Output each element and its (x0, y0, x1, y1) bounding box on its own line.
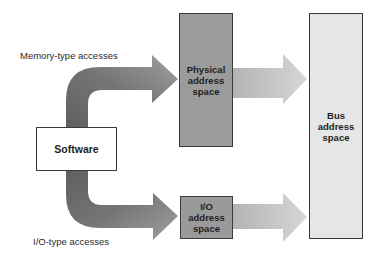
io-accesses-label: I/O-type accesses (33, 236, 109, 247)
software-box: Software (36, 127, 117, 171)
io-address-space-label: I/O address space (188, 201, 224, 234)
physical-address-space-box: Physical address space (179, 13, 233, 147)
io-to-bus-arrow (233, 193, 307, 242)
address-space-diagram: Memory-type accesses I/O-type accesses P… (0, 0, 380, 264)
physical-to-bus-arrow (233, 54, 307, 104)
software-label: Software (54, 144, 98, 155)
bus-address-space-box: Bus address space (309, 13, 363, 239)
io-address-space-box: I/O address space (180, 196, 233, 239)
bus-address-space-label: Bus address space (318, 110, 354, 143)
physical-address-space-label: Physical address space (187, 64, 226, 97)
memory-access-arrow (66, 55, 178, 128)
io-access-arrow (66, 170, 178, 240)
memory-accesses-label: Memory-type accesses (20, 50, 118, 61)
